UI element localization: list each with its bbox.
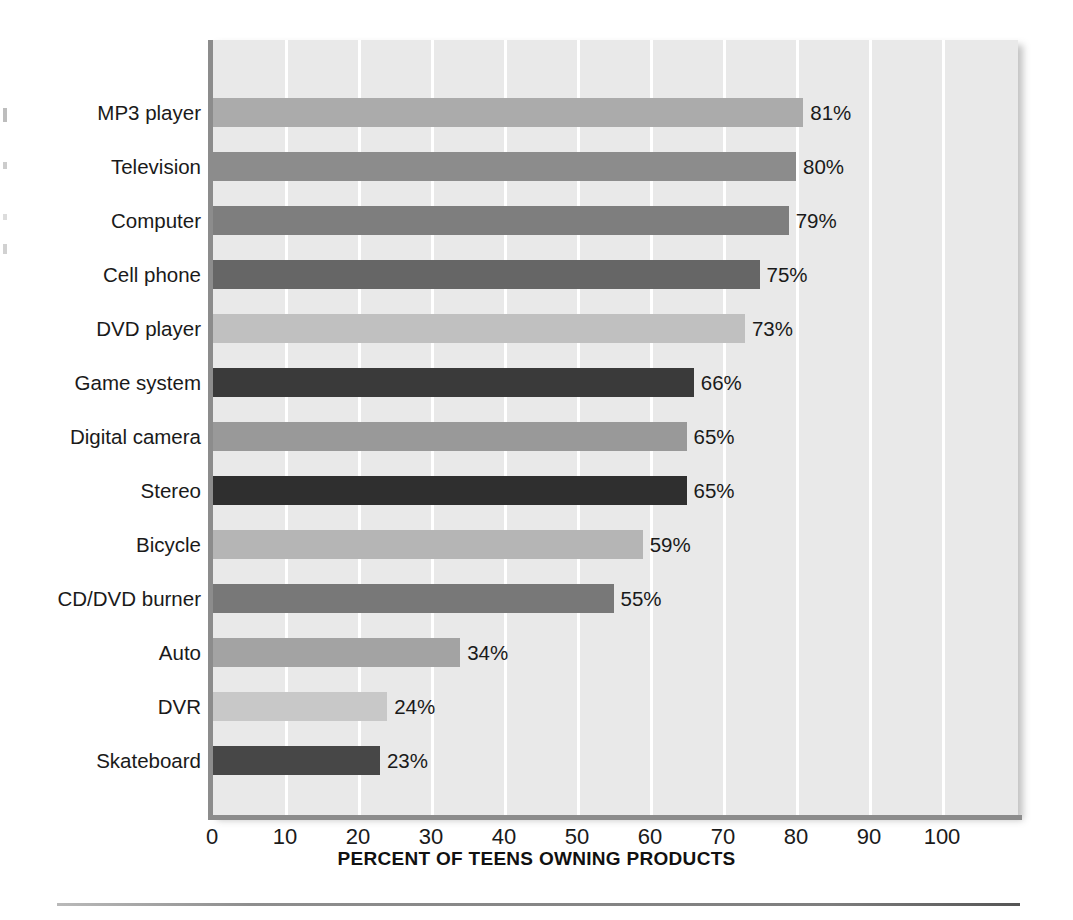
bar-row (212, 301, 1018, 355)
bar-computer[interactable] (212, 206, 789, 235)
bar-row (212, 247, 1018, 301)
bar-row (212, 355, 1018, 409)
category-label-bicycle: Bicycle (136, 530, 201, 559)
category-label-dvr: DVR (158, 692, 201, 721)
x-tick-0: 0 (206, 824, 218, 850)
x-tick-30: 30 (419, 824, 443, 850)
category-label-cell-phone: Cell phone (103, 260, 201, 289)
value-label-auto: 34% (467, 638, 508, 667)
bar-stereo[interactable] (212, 476, 687, 505)
x-tick-90: 90 (857, 824, 881, 850)
bar-row (212, 409, 1018, 463)
bar-skateboard[interactable] (212, 746, 380, 775)
bar-digital-camera[interactable] (212, 422, 687, 451)
bar-mp3-player[interactable] (212, 98, 803, 127)
bar-game-system[interactable] (212, 368, 694, 397)
bar-auto[interactable] (212, 638, 460, 667)
bar-row (212, 193, 1018, 247)
x-tick-50: 50 (565, 824, 589, 850)
category-label-mp3-player: MP3 player (97, 98, 201, 127)
x-axis-line (208, 815, 1022, 820)
bar-row (212, 139, 1018, 193)
bar-cell-phone[interactable] (212, 260, 760, 289)
bar-cd-dvd-burner[interactable] (212, 584, 614, 613)
bar-row (212, 733, 1018, 787)
page-edge-mark (3, 214, 7, 220)
value-label-dvr: 24% (394, 692, 435, 721)
bar-chart-figure: MP3 playerTelevisionComputerCell phoneDV… (0, 0, 1073, 920)
x-tick-40: 40 (492, 824, 516, 850)
bar-row (212, 679, 1018, 733)
bar-dvr[interactable] (212, 692, 387, 721)
page-edge-mark (3, 244, 7, 254)
category-label-cd-dvd-burner: CD/DVD burner (57, 584, 201, 613)
bar-bicycle[interactable] (212, 530, 643, 559)
bar-row (212, 625, 1018, 679)
x-tick-70: 70 (711, 824, 735, 850)
bar-row (212, 517, 1018, 571)
category-label-dvd-player: DVD player (96, 314, 201, 343)
x-tick-100: 100 (924, 824, 961, 850)
x-axis-title: PERCENT OF TEENS OWNING PRODUCTS (0, 848, 1073, 870)
bottom-rule (57, 903, 1020, 906)
x-tick-20: 20 (346, 824, 370, 850)
bar-row (212, 463, 1018, 517)
x-tick-10: 10 (273, 824, 297, 850)
value-label-television: 80% (803, 152, 844, 181)
value-label-cd-dvd-burner: 55% (621, 584, 662, 613)
category-label-digital-camera: Digital camera (70, 422, 201, 451)
plot-area (212, 40, 1018, 815)
bar-row (212, 571, 1018, 625)
category-label-game-system: Game system (75, 368, 201, 397)
category-label-skateboard: Skateboard (96, 746, 201, 775)
bar-dvd-player[interactable] (212, 314, 745, 343)
value-label-bicycle: 59% (650, 530, 691, 559)
page-edge-mark (3, 162, 7, 169)
category-label-auto: Auto (159, 638, 201, 667)
value-label-stereo: 65% (694, 476, 735, 505)
value-label-skateboard: 23% (387, 746, 428, 775)
category-label-computer: Computer (111, 206, 201, 235)
value-label-game-system: 66% (701, 368, 742, 397)
value-label-mp3-player: 81% (810, 98, 851, 127)
x-tick-80: 80 (784, 824, 808, 850)
x-tick-60: 60 (638, 824, 662, 850)
value-label-digital-camera: 65% (694, 422, 735, 451)
category-label-stereo: Stereo (141, 476, 201, 505)
value-label-cell-phone: 75% (767, 260, 808, 289)
page-edge-mark (3, 108, 7, 122)
bar-row (212, 85, 1018, 139)
bar-television[interactable] (212, 152, 796, 181)
value-label-computer: 79% (796, 206, 837, 235)
value-label-dvd-player: 73% (752, 314, 793, 343)
category-label-television: Television (111, 152, 201, 181)
y-axis-spine (208, 40, 213, 819)
